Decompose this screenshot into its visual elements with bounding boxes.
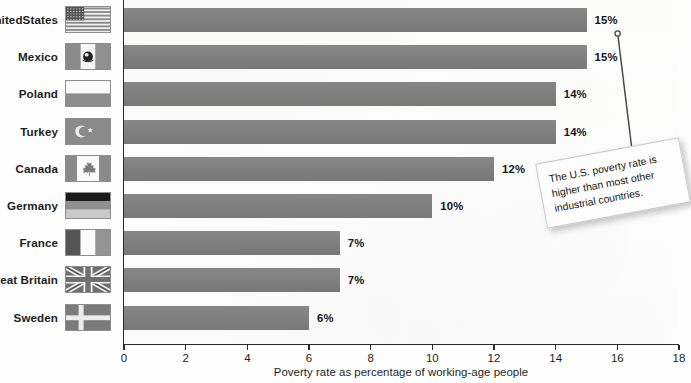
x-tick-mark — [185, 345, 186, 350]
x-tick-mark — [678, 345, 679, 350]
bar-value-label: 6% — [317, 306, 334, 330]
country-label: Turkey — [0, 113, 58, 150]
x-tick-label: 18 — [673, 352, 686, 364]
x-tick-label: 10 — [426, 352, 439, 364]
x-tick-mark — [617, 345, 618, 350]
x-tick-label: 2 — [182, 352, 188, 364]
country-label-line: Poland — [19, 87, 58, 100]
bar — [124, 45, 587, 69]
flag-sweden-icon — [65, 304, 111, 331]
country-label: Great Britain — [0, 261, 58, 298]
x-tick-mark — [370, 345, 371, 350]
country-label-line: Germany — [7, 199, 58, 212]
country-label-line: United — [0, 13, 23, 26]
x-tick-mark — [432, 345, 433, 350]
bar — [124, 268, 340, 292]
bar — [124, 306, 309, 330]
bar-row: UnitedStates 15% — [0, 1, 690, 38]
country-label: Canada — [0, 150, 58, 187]
bar-row: Sweden 6% — [0, 299, 690, 336]
flag-great-britain-icon — [65, 266, 111, 293]
bar-value-label: 7% — [348, 268, 365, 292]
bar-value-label: 12% — [502, 157, 525, 181]
bar-value-label: 14% — [564, 82, 587, 106]
flag-mexico-icon — [65, 43, 111, 70]
x-tick-mark — [493, 345, 494, 350]
x-axis-title: Poverty rate as percentage of working-ag… — [123, 366, 679, 378]
flag-poland-icon — [65, 80, 111, 107]
bar — [124, 120, 556, 144]
country-label: Sweden — [0, 299, 58, 336]
bar-value-label: 7% — [348, 231, 365, 255]
country-label-line: France — [19, 236, 58, 249]
callout-text: The U.S. poverty rate is higher than mos… — [548, 154, 657, 214]
x-tick-label: 14 — [549, 352, 562, 364]
country-label-line: Mexico — [18, 50, 58, 63]
x-tick-label: 4 — [244, 352, 250, 364]
country-label: Germany — [0, 187, 58, 224]
bar-row: Great Britain 7% — [0, 261, 690, 298]
country-label-line: Turkey — [20, 125, 58, 138]
bar — [124, 8, 587, 32]
country-label-line: Canada — [16, 162, 58, 175]
country-label-line: Great Britain — [0, 273, 58, 286]
x-tick-label: 8 — [367, 352, 373, 364]
country-label: Mexico — [0, 38, 58, 75]
x-tick-label: 6 — [306, 352, 312, 364]
bar-value-label: 15% — [595, 8, 618, 32]
bar-row: France 7% — [0, 224, 690, 261]
x-tick-mark — [555, 345, 556, 350]
x-tick-mark — [123, 345, 124, 350]
bar-row: Poland 14% — [0, 75, 690, 112]
country-label: France — [0, 224, 58, 261]
country-label: UnitedStates — [0, 1, 58, 38]
country-label-line: States — [23, 13, 58, 26]
country-label-line: Sweden — [14, 311, 58, 324]
bar — [124, 231, 340, 255]
bar-value-label: 15% — [595, 45, 618, 69]
bar — [124, 194, 432, 218]
flag-turkey-icon — [65, 118, 111, 145]
bar-value-label: 10% — [440, 194, 463, 218]
bar — [124, 157, 494, 181]
x-tick-mark — [308, 345, 309, 350]
bar — [124, 82, 556, 106]
x-tick-label: 16 — [611, 352, 624, 364]
flag-germany-icon — [65, 192, 111, 219]
x-tick-label: 12 — [488, 352, 501, 364]
flag-canada-icon — [65, 155, 111, 182]
x-tick-mark — [247, 345, 248, 350]
bar-value-label: 14% — [564, 120, 587, 144]
x-tick-label: 0 — [121, 352, 127, 364]
flag-united-states-icon — [65, 6, 111, 33]
bar-row: Mexico 15% — [0, 38, 690, 75]
flag-france-icon — [65, 229, 111, 256]
country-label: Poland — [0, 75, 58, 112]
bar-row: Turkey 14% — [0, 113, 690, 150]
